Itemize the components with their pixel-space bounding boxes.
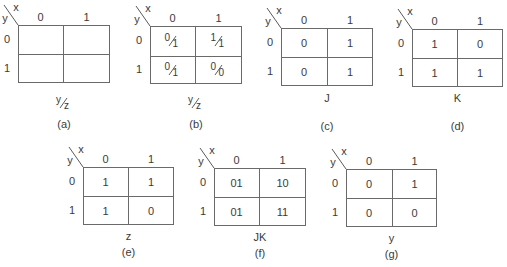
panel-caption: (g) — [362, 248, 422, 260]
column-header: 0 — [359, 155, 379, 167]
kmap-cell: 1 — [457, 58, 503, 87]
column-header: 0 — [96, 153, 116, 165]
kmap-cell: 10 — [259, 168, 306, 197]
fraction-denominator: 1 — [173, 67, 179, 78]
map-label-fraction: yz — [55, 95, 73, 111]
column-header: 1 — [405, 155, 425, 167]
row-header: 1 — [260, 65, 280, 77]
kmap-cell: 01 — [214, 168, 259, 197]
row-header: 0 — [62, 175, 82, 187]
kmap-cell: 0 — [281, 28, 327, 57]
row-header: 0 — [260, 36, 280, 48]
row-header: 0 — [129, 34, 149, 46]
cell-fraction: 01 — [164, 62, 182, 78]
map-label: y — [362, 232, 422, 244]
row-header: 1 — [391, 66, 411, 78]
row-variable-label: y — [127, 13, 147, 25]
kmap-cell — [63, 54, 110, 83]
row-variable-label: y — [389, 16, 409, 28]
kmap-cell: 01 — [214, 197, 259, 226]
kmap-cell: 0 — [346, 169, 392, 198]
panel-caption: (d) — [428, 120, 488, 132]
panel-caption: (f) — [230, 247, 290, 259]
row-header: 1 — [193, 205, 213, 217]
kmap-cell: 1 — [128, 167, 174, 196]
row-header: 0 — [325, 177, 345, 189]
row-header: 1 — [0, 62, 17, 74]
kmap-cell — [18, 54, 63, 83]
column-header: 1 — [340, 14, 360, 26]
row-header: 1 — [129, 63, 149, 75]
kmap-cell: 1 — [412, 58, 457, 87]
row-header: 0 — [391, 37, 411, 49]
kmap-cell — [18, 25, 63, 54]
kmap-cell: 01 — [150, 26, 195, 56]
fraction-denominator: z — [196, 100, 201, 112]
column-header: 1 — [77, 11, 97, 23]
row-variable-label: y — [191, 155, 211, 167]
column-header: 0 — [425, 15, 445, 27]
kmap-cell: 1 — [392, 169, 437, 198]
map-label: J — [297, 92, 357, 104]
kmap-cell: 0 — [281, 57, 327, 86]
column-header: 1 — [141, 153, 161, 165]
row-header: 0 — [0, 33, 17, 45]
kmap-cell: 1 — [83, 196, 128, 225]
column-header: 1 — [209, 12, 229, 24]
cell-fraction: 11 — [210, 33, 228, 49]
kmap-cell — [63, 25, 110, 54]
kmap-cell: 11 — [259, 197, 306, 226]
row-variable-label: y — [258, 15, 278, 27]
map-label: z — [99, 230, 159, 242]
row-variable-label: y — [0, 12, 15, 24]
column-header: 0 — [227, 154, 247, 166]
row-variable-label: y — [60, 154, 80, 166]
kmap-cell: 0 — [346, 198, 392, 227]
kmap-cell: 11 — [195, 26, 242, 56]
kmap-cell: 1 — [327, 28, 373, 57]
panel-caption: (b) — [166, 118, 226, 130]
fraction-denominator: z — [64, 100, 69, 112]
kmap-cell: 1 — [83, 167, 128, 196]
cell-fraction: 01 — [164, 33, 182, 49]
column-header: 0 — [31, 11, 51, 23]
panel-caption: (c) — [297, 120, 357, 132]
column-header: 1 — [470, 15, 490, 27]
row-header: 1 — [62, 204, 82, 216]
kmap-cell: 1 — [327, 57, 373, 86]
panel-caption: (a) — [34, 118, 94, 130]
kmap-cell: 0 — [392, 198, 437, 227]
kmap-cell: 01 — [150, 56, 195, 84]
map-label: yz — [34, 95, 94, 113]
map-label: JK — [230, 231, 290, 243]
row-variable-label: y — [323, 156, 343, 168]
fraction-denominator: 0 — [219, 67, 225, 78]
map-label-fraction: yz — [187, 95, 205, 111]
cell-fraction: 00 — [210, 62, 228, 78]
kmap-cell: 0 — [128, 196, 174, 225]
map-label: yz — [166, 95, 226, 113]
row-header: 1 — [325, 206, 345, 218]
panel-caption: (e) — [99, 246, 159, 258]
kmap-cell: 00 — [195, 56, 242, 84]
kmap-cell: 1 — [412, 29, 457, 58]
column-header: 1 — [273, 154, 293, 166]
row-header: 0 — [193, 176, 213, 188]
map-label: K — [428, 92, 488, 104]
fraction-denominator: 1 — [219, 38, 225, 49]
column-header: 0 — [163, 12, 183, 24]
kmap-cell: 0 — [457, 29, 503, 58]
fraction-denominator: 1 — [173, 38, 179, 49]
column-header: 0 — [294, 14, 314, 26]
